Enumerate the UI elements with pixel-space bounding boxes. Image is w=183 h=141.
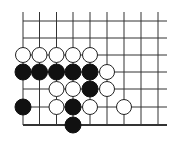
white-stone xyxy=(83,100,98,115)
white-stone xyxy=(83,48,98,63)
white-stone xyxy=(117,100,132,115)
stones xyxy=(15,48,132,134)
black-stone xyxy=(15,64,31,80)
black-stone xyxy=(65,64,81,80)
white-stone xyxy=(16,48,31,63)
black-stone xyxy=(65,99,81,115)
white-stone xyxy=(66,48,81,63)
white-stone xyxy=(49,48,64,63)
go-board xyxy=(0,0,183,141)
white-stone xyxy=(100,65,115,80)
white-stone xyxy=(49,82,64,97)
black-stone xyxy=(82,81,98,97)
black-stone xyxy=(49,64,65,80)
black-stone xyxy=(32,64,48,80)
black-stone xyxy=(65,117,81,133)
black-stone xyxy=(15,99,31,115)
white-stone xyxy=(100,82,115,97)
white-stone xyxy=(49,100,64,115)
white-stone xyxy=(66,82,81,97)
black-stone xyxy=(82,64,98,80)
white-stone xyxy=(32,48,47,63)
